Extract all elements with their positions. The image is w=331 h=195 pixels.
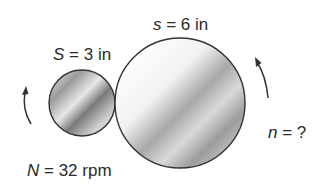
large-wheel-diameter-label: s = 6 in — [153, 15, 208, 34]
rotation-arrow-left-icon — [22, 86, 31, 124]
rotation-arrow-right-icon — [255, 57, 268, 98]
small-wheel — [49, 70, 115, 136]
large-wheel-speed-label: n = ? — [268, 123, 306, 142]
small-wheel-diameter-label: S = 3 in — [53, 45, 111, 64]
large-wheel — [115, 38, 245, 168]
small-wheel-speed-label: N = 32 rpm — [27, 161, 112, 180]
pulley-diagram: S = 3 in s = 6 in N = 32 rpm n = ? — [0, 0, 331, 195]
